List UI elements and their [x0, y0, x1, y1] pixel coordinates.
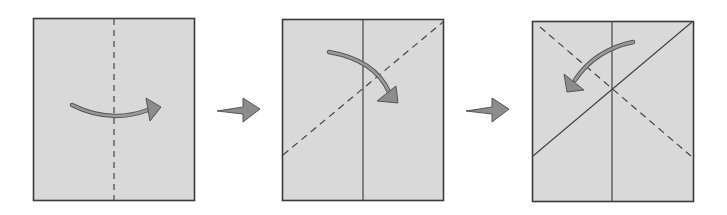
step-1-panel: Fold in half along the vertical center d… — [34, 19, 195, 201]
folding-diagram: Fold in half along the vertical center d… — [0, 0, 727, 215]
next-step-arrow-icon — [466, 98, 509, 122]
step-3-panel: Fold along the opposite diagonal dashed … — [533, 22, 694, 202]
step-2-panel: Fold along the diagonal dashed line, top… — [283, 20, 444, 201]
next-step-arrow-icon — [217, 98, 260, 122]
